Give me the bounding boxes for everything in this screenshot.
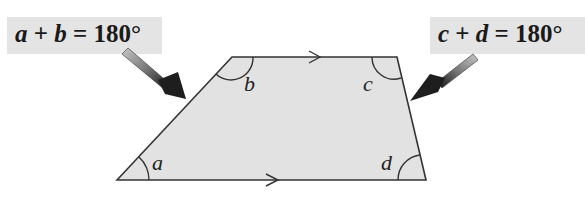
angle-label-d: d [381,150,393,175]
arrow-left-icon [122,48,186,99]
angle-label-c: c [363,71,373,96]
arrow-right-icon [410,54,478,101]
trapezium-shape [117,57,426,180]
angle-label-b: b [244,71,255,96]
angle-label-a: a [152,150,163,175]
